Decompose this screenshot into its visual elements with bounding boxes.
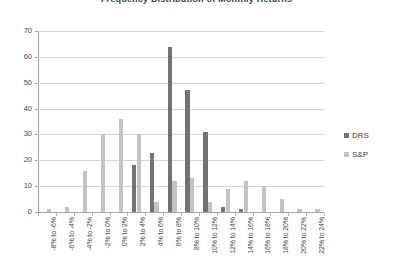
bar-sp-9 <box>208 202 212 212</box>
x-tick-mark-12 <box>253 213 254 216</box>
bar-sp-4 <box>119 119 123 212</box>
y-tick-label-60: 60 <box>6 53 32 61</box>
x-tick-mark-4 <box>110 213 111 216</box>
x-tick-label-6: 4% to 6% <box>157 217 164 246</box>
bar-group <box>217 31 235 212</box>
legend-item-sp[interactable]: S&P <box>344 150 369 159</box>
x-tick-mark-1 <box>56 213 57 216</box>
bar-drs-8 <box>185 90 189 212</box>
bar-group <box>110 31 128 212</box>
bar-sp-12 <box>262 186 266 212</box>
bar-drs-10 <box>221 207 225 212</box>
bar-drs-6 <box>150 153 154 212</box>
chart-title: Frequency Distribution of Monthly Return… <box>0 0 393 4</box>
bar-sp-10 <box>226 189 230 212</box>
x-tick-mark-8 <box>181 213 182 216</box>
x-tick-mark-6 <box>145 213 146 216</box>
legend-swatch-icon <box>344 152 349 157</box>
bar-sp-7 <box>172 181 176 212</box>
y-tick-label-10: 10 <box>6 182 32 190</box>
bar-group <box>253 31 271 212</box>
x-tick-mark-7 <box>163 213 164 216</box>
plot-area <box>38 31 324 212</box>
x-tick-label-5: 2% to 4% <box>139 217 146 246</box>
x-tick-label-14: 20% to 22% <box>300 217 307 254</box>
bar-drs-11 <box>239 209 243 212</box>
x-tick-mark-9 <box>199 213 200 216</box>
bar-group <box>127 31 145 212</box>
bar-group <box>74 31 92 212</box>
bar-group <box>288 31 306 212</box>
x-tick-label-2: -4% to -2% <box>86 217 93 251</box>
y-tick-label-50: 50 <box>6 79 32 87</box>
x-tick-mark-13 <box>270 213 271 216</box>
x-tick-label-13: 18% to 20% <box>282 217 289 254</box>
x-tick-label-9: 10% to 12% <box>211 217 218 254</box>
bar-group <box>270 31 288 212</box>
legend-label: S&P <box>352 150 368 159</box>
x-tick-label-4: 0% to 2% <box>121 217 128 246</box>
x-tick-label-8: 8% to 10% <box>193 217 200 250</box>
bar-sp-6 <box>154 202 158 212</box>
x-tick-label-12: 16% to 18% <box>264 217 271 254</box>
bar-drs-9 <box>203 132 207 212</box>
x-tick-label-15: 22% to 24% <box>318 217 325 254</box>
legend-label: DRS <box>352 131 369 140</box>
x-tick-label-1: -6% to -4% <box>68 217 75 251</box>
bar-group <box>145 31 163 212</box>
y-tick-label-30: 30 <box>6 130 32 138</box>
x-tick-label-10: 12% to 14% <box>229 217 236 254</box>
bar-sp-14 <box>297 209 301 212</box>
x-tick-mark-end <box>324 213 325 216</box>
x-tick-mark-3 <box>92 213 93 216</box>
x-tick-mark-0 <box>38 213 39 216</box>
x-tick-mark-15 <box>306 213 307 216</box>
x-tick-label-3: -2% to 0% <box>104 217 111 248</box>
bar-drs-7 <box>168 47 172 212</box>
bar-sp-5 <box>137 134 141 212</box>
y-tick-label-70: 70 <box>6 27 32 35</box>
x-axis-tick-labels: -8% to -6%-6% to -4%-4% to -2%-2% to 0%0… <box>38 213 324 279</box>
bar-group <box>181 31 199 212</box>
bar-sp-11 <box>244 181 248 212</box>
x-tick-mark-14 <box>288 213 289 216</box>
bar-sp-15 <box>315 209 319 212</box>
bar-group <box>306 31 324 212</box>
bar-sp-0 <box>47 209 51 212</box>
bar-group <box>56 31 74 212</box>
bar-sp-3 <box>101 134 105 212</box>
bar-sp-1 <box>65 207 69 212</box>
y-tick-label-0: 0 <box>6 208 32 216</box>
legend-swatch-icon <box>344 133 349 138</box>
x-tick-mark-2 <box>74 213 75 216</box>
bar-group <box>235 31 253 212</box>
bar-group <box>38 31 56 212</box>
x-tick-label-0: -8% to -6% <box>50 217 57 251</box>
bar-group <box>92 31 110 212</box>
bar-sp-2 <box>83 171 87 212</box>
chart-legend: DRSS&P <box>344 131 369 169</box>
x-tick-mark-11 <box>235 213 236 216</box>
bar-group <box>163 31 181 212</box>
bar-sp-8 <box>190 178 194 212</box>
legend-item-drs[interactable]: DRS <box>344 131 369 140</box>
x-tick-mark-5 <box>127 213 128 216</box>
x-tick-mark-10 <box>217 213 218 216</box>
chart-container: Frequency Distribution of Monthly Return… <box>0 0 393 279</box>
bar-sp-13 <box>280 199 284 212</box>
x-tick-label-7: 6% to 8% <box>175 217 182 246</box>
y-tick-label-40: 40 <box>6 105 32 113</box>
bar-group <box>199 31 217 212</box>
y-tick-label-20: 20 <box>6 156 32 164</box>
bar-drs-5 <box>132 165 136 212</box>
x-tick-label-11: 14% to 16% <box>247 217 254 254</box>
